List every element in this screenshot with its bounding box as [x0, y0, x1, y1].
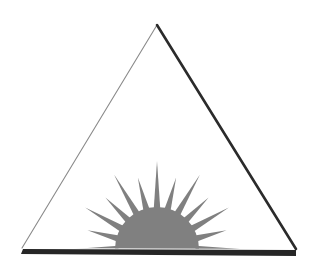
emblem-svg: Sunburst Triangle Emblem	[0, 0, 317, 272]
artwork-canvas: Sunburst Triangle Emblem	[0, 0, 317, 272]
